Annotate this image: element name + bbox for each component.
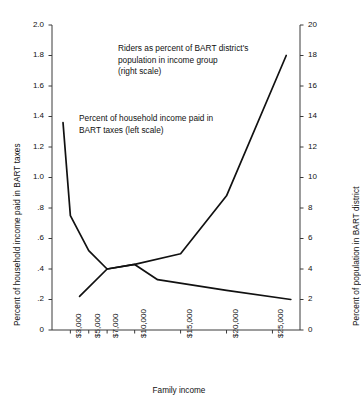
- series-line-taxes: [63, 123, 291, 300]
- series-line-riders: [80, 56, 287, 297]
